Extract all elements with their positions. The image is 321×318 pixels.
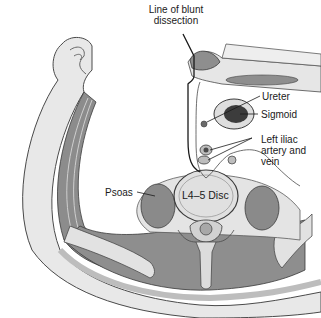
label-psoas: Psoas <box>105 187 133 198</box>
label-line-1: Left iliac <box>261 134 306 145</box>
label-disc: L4–5 Disc <box>182 190 229 201</box>
label-line-3: vein <box>261 156 306 167</box>
label-line-2: dissection <box>136 15 216 26</box>
psoas-right <box>245 186 279 230</box>
label-line-1: Line of blunt <box>136 4 216 15</box>
spinal-cord <box>200 223 212 235</box>
label-blunt-dissection: Line of blunt dissection <box>136 4 216 26</box>
label-ureter: Ureter <box>262 91 290 102</box>
ureter <box>201 121 207 127</box>
psoas-left <box>141 184 175 228</box>
label-iliac-vessels: Left iliac artery and vein <box>261 134 306 167</box>
label-sigmoid: Sigmoid <box>261 109 297 120</box>
label-line-2: artery and <box>261 145 306 156</box>
